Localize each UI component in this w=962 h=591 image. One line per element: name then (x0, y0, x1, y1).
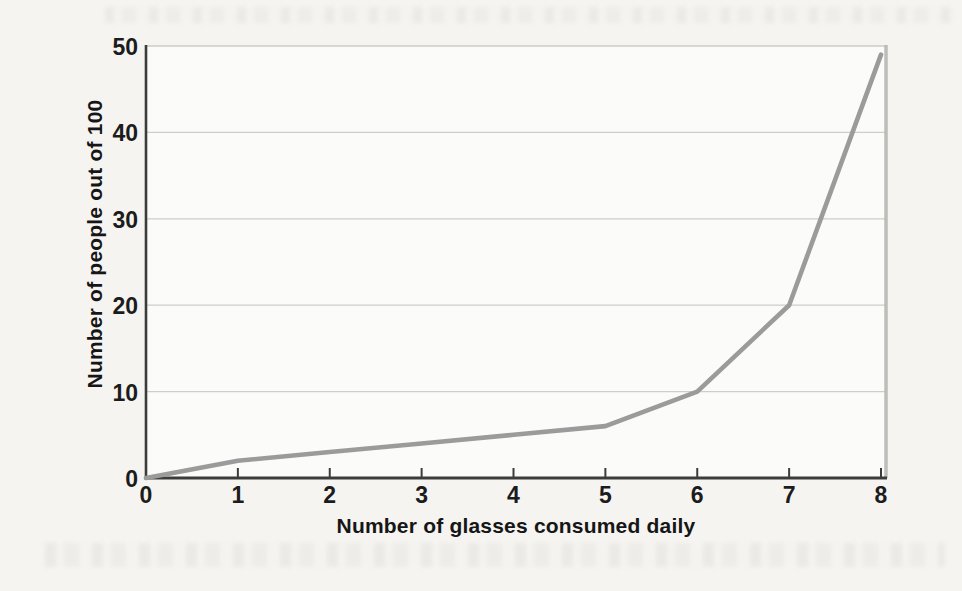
plot-area (146, 46, 886, 478)
x-tick-label: 5 (583, 483, 627, 507)
y-tick-label: 50 (68, 34, 138, 60)
chart-figure: Number of glasses consumed daily Number … (0, 0, 962, 591)
y-tick-label: 20 (68, 293, 138, 319)
x-tick-label: 2 (308, 483, 352, 507)
x-tick-label: 3 (400, 483, 444, 507)
x-axis-title: Number of glasses consumed daily (146, 514, 886, 538)
x-tick-label: 4 (492, 483, 536, 507)
x-tick-label: 1 (216, 483, 260, 507)
x-tick-label: 8 (859, 483, 903, 507)
y-tick-label: 10 (68, 380, 138, 406)
x-tick-label: 6 (675, 483, 719, 507)
y-tick-label: 30 (68, 207, 138, 233)
x-tick-label: 7 (767, 483, 811, 507)
y-tick-label: 40 (68, 120, 138, 146)
x-tick-label: 0 (124, 483, 168, 507)
